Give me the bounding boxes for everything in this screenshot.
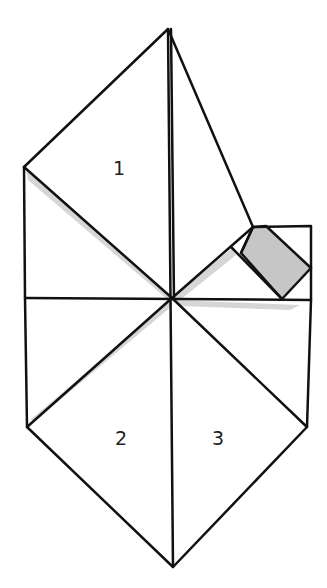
region-label-3: 3 — [212, 427, 224, 449]
shaded-flap — [241, 226, 311, 299]
region-label-1: 1 — [113, 157, 125, 179]
outline-lines — [24, 29, 311, 567]
folding-diagram: 1 2 3 — [0, 0, 327, 588]
region-label-2: 2 — [115, 427, 127, 449]
